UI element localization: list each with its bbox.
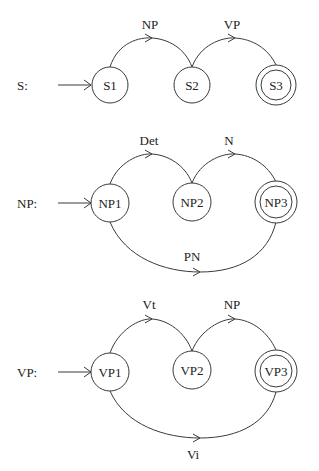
arc-label: Det: [140, 133, 159, 148]
state-s2: S2: [174, 67, 210, 103]
state-label: VP1: [98, 365, 121, 380]
start-arrow-icon: [58, 80, 91, 90]
state-label: S1: [103, 78, 117, 93]
network-label-np: NP:: [17, 196, 37, 211]
arc-label: N: [224, 133, 234, 148]
state-label: VP2: [180, 363, 203, 378]
arc-label: Vt: [143, 297, 156, 312]
arc-label: VP: [224, 17, 241, 32]
state-np3-final: NP3: [255, 181, 297, 223]
arc-label: NP: [224, 297, 241, 312]
network-label-vp: VP:: [17, 365, 37, 380]
rtn-diagram: S: NP VP S1 S2 S3: [0, 0, 319, 471]
state-np1: NP1: [91, 184, 129, 222]
arc-s1-s2: [110, 34, 192, 67]
state-vp1: VP1: [91, 353, 129, 391]
arc-s2-s3: [192, 34, 276, 67]
arc-label: PN: [184, 249, 201, 264]
arc-vp2-vp3: [192, 315, 276, 351]
arc-vp1-vp2: [110, 315, 192, 353]
state-label: NP3: [264, 195, 287, 210]
state-label: NP2: [180, 195, 203, 210]
state-label: S3: [269, 78, 283, 93]
arc-vp1-vp3: [110, 391, 276, 442]
network-s: S: NP VP S1 S2 S3: [17, 17, 296, 105]
state-vp2: VP2: [173, 351, 211, 389]
network-np: NP: Det N PN NP1 NP2: [17, 133, 297, 276]
start-arrow-icon: [58, 198, 91, 208]
arc-np1-np2: [110, 150, 192, 184]
network-vp: VP: Vt NP Vi VP1 VP2: [17, 297, 297, 462]
state-label: NP1: [98, 196, 121, 211]
arc-label: Vi: [187, 447, 200, 462]
arc-label: NP: [142, 17, 159, 32]
start-arrow-icon: [58, 367, 91, 377]
arc-np2-np3: [192, 150, 276, 183]
network-label-s: S:: [17, 78, 28, 93]
state-vp3-final: VP3: [255, 350, 297, 392]
state-label: VP3: [264, 364, 287, 379]
state-np2: NP2: [173, 183, 211, 221]
state-s3-final: S3: [256, 65, 296, 105]
state-label: S2: [185, 78, 199, 93]
state-s1: S1: [92, 67, 128, 103]
